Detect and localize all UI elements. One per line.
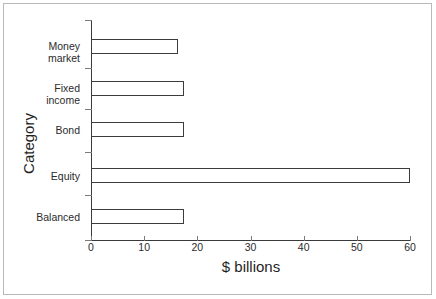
y-tick-label-balanced: Balanced — [0, 211, 80, 223]
y-axis-top-tick — [85, 20, 92, 21]
bar-balanced — [91, 209, 184, 224]
bar-chart: Money market Fixed income Bond Equity Ba… — [0, 0, 436, 299]
y-axis-tick — [85, 195, 92, 196]
x-tick-label: 50 — [337, 241, 377, 254]
bar-bond — [91, 122, 184, 137]
x-tick-label: 20 — [177, 241, 217, 254]
y-axis-tick — [85, 68, 92, 69]
x-tick-label: 0 — [71, 241, 111, 254]
y-tick-label-money-market: Money market — [0, 40, 80, 64]
chart-screenshot: Money market Fixed income Bond Equity Ba… — [0, 0, 436, 299]
y-axis-tick — [85, 109, 92, 110]
x-tick-label: 60 — [390, 241, 430, 254]
bar-equity — [91, 168, 410, 183]
y-axis-title: Category — [8, 90, 48, 200]
bar-fixed-income — [91, 81, 184, 96]
bar-money-market — [91, 39, 178, 54]
x-tick-label: 40 — [284, 241, 324, 254]
x-axis-title: $ billions — [91, 258, 411, 275]
x-tick-label: 10 — [124, 241, 164, 254]
x-tick-label: 30 — [231, 241, 271, 254]
y-axis-tick — [85, 152, 92, 153]
